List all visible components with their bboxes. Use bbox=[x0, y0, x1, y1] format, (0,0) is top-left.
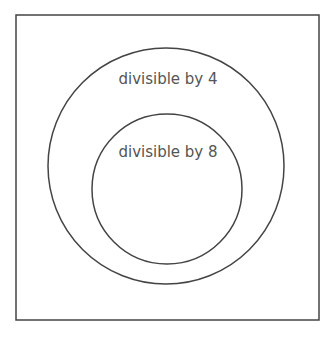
universe-frame bbox=[16, 15, 319, 320]
label-divisible-by-8: divisible by 8 bbox=[118, 143, 217, 161]
label-divisible-by-4: divisible by 4 bbox=[118, 70, 217, 88]
venn-diagram: divisible by 4 divisible by 8 bbox=[0, 0, 332, 337]
set-divisible-by-8 bbox=[92, 114, 242, 264]
